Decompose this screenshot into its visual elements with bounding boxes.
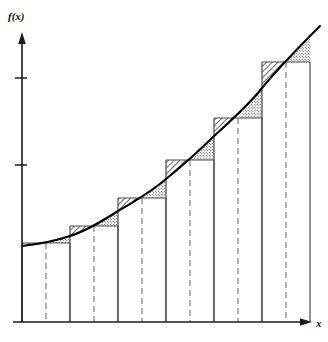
function-curve [22, 26, 320, 246]
hatched-triangle-group [22, 62, 286, 246]
figure-canvas: f(x) x [0, 0, 328, 342]
y-axis-label: f(x) [8, 10, 25, 23]
x-axis-label: x [315, 317, 322, 329]
diagram-svg: f(x) x [0, 0, 328, 342]
riemann-rectangle-group [22, 62, 310, 322]
y-axis-arrow-icon [18, 32, 26, 44]
